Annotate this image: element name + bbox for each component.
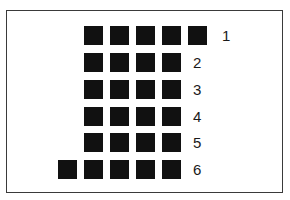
square-r2-c3 bbox=[136, 53, 155, 72]
row-label-6: 6 bbox=[193, 160, 201, 179]
square-r6-c0 bbox=[58, 160, 77, 179]
square-r4-c4 bbox=[162, 107, 181, 126]
square-r4-c1 bbox=[84, 107, 103, 126]
square-r5-c4 bbox=[162, 133, 181, 152]
square-r1-c2 bbox=[110, 26, 129, 45]
square-r1-c5 bbox=[188, 26, 207, 45]
square-r3-c4 bbox=[162, 80, 181, 99]
square-r1-c1 bbox=[84, 26, 103, 45]
square-r1-c4 bbox=[162, 26, 181, 45]
square-r3-c2 bbox=[110, 80, 129, 99]
square-r5-c2 bbox=[110, 133, 129, 152]
square-r5-c3 bbox=[136, 133, 155, 152]
row-label-3: 3 bbox=[193, 80, 201, 99]
square-r2-c1 bbox=[84, 53, 103, 72]
square-r3-c1 bbox=[84, 80, 103, 99]
square-r6-c3 bbox=[136, 160, 155, 179]
square-r4-c3 bbox=[136, 107, 155, 126]
square-r6-c1 bbox=[84, 160, 103, 179]
square-r5-c1 bbox=[84, 133, 103, 152]
square-r2-c4 bbox=[162, 53, 181, 72]
square-r6-c4 bbox=[162, 160, 181, 179]
row-label-1: 1 bbox=[222, 26, 230, 45]
square-r2-c2 bbox=[110, 53, 129, 72]
square-r4-c2 bbox=[110, 107, 129, 126]
row-label-2: 2 bbox=[193, 53, 201, 72]
square-r1-c3 bbox=[136, 26, 155, 45]
square-r6-c2 bbox=[110, 160, 129, 179]
row-label-4: 4 bbox=[193, 107, 201, 126]
row-label-5: 5 bbox=[193, 133, 201, 152]
square-r3-c3 bbox=[136, 80, 155, 99]
